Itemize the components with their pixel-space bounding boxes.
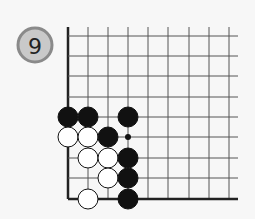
problem-number-badge: 9 [18,28,52,62]
white-stone [78,148,98,168]
black-stone [118,168,138,188]
black-stone [118,107,138,127]
black-stone [118,189,138,209]
white-stone [78,127,98,147]
white-stone [98,148,118,168]
white-stone [98,168,118,188]
white-stone [58,127,78,147]
black-stone [78,107,98,127]
problem-number: 9 [28,34,42,59]
point-marker-dot [125,134,131,140]
black-stone [58,107,78,127]
go-diagram: 9 [0,0,255,219]
white-stone [78,189,98,209]
black-stone [118,148,138,168]
markers-layer [125,134,131,140]
black-stone [98,127,118,147]
